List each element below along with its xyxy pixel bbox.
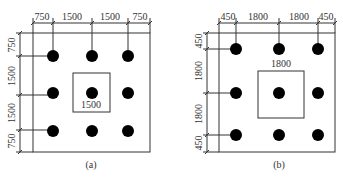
- pile: [273, 129, 285, 141]
- panel-caption: (b): [273, 159, 285, 171]
- pile: [47, 125, 59, 137]
- dim-label: 750: [35, 11, 50, 22]
- pile: [86, 50, 98, 62]
- pile: [230, 87, 242, 99]
- pile: [230, 129, 242, 141]
- pile: [312, 129, 324, 141]
- dim-label: 750: [6, 38, 17, 53]
- dim-label: 1800: [193, 61, 204, 81]
- pile: [47, 87, 59, 99]
- pile: [86, 125, 98, 137]
- column-size-label: 1800: [271, 58, 291, 69]
- dim-label: 1800: [289, 11, 309, 22]
- pile: [86, 87, 98, 99]
- pile: [273, 87, 285, 99]
- pile: [273, 43, 285, 55]
- dim-label: 1500: [62, 11, 82, 22]
- dim-label: 750: [6, 134, 17, 149]
- pile: [122, 87, 134, 99]
- pile-cap-diagrams: 750 1500 1500 750 750 1500 1500 750 1500…: [0, 0, 343, 181]
- panel-caption: (a): [85, 159, 96, 171]
- piles-a: [47, 50, 134, 137]
- dim-label: 450: [193, 34, 204, 49]
- dim-label: 1500: [6, 103, 17, 123]
- dim-label: 450: [193, 136, 204, 151]
- pile: [312, 43, 324, 55]
- column-size-label: 1500: [81, 99, 101, 110]
- pile: [47, 50, 59, 62]
- pile: [312, 87, 324, 99]
- dim-label: 1500: [6, 66, 17, 86]
- pile: [122, 125, 134, 137]
- pile: [230, 43, 242, 55]
- dim-label: 450: [319, 11, 334, 22]
- dim-label: 1800: [193, 104, 204, 124]
- dim-label: 1800: [248, 11, 268, 22]
- dim-label: 1500: [100, 11, 120, 22]
- dim-label: 750: [133, 11, 148, 22]
- pile: [122, 50, 134, 62]
- dim-label: 450: [221, 11, 236, 22]
